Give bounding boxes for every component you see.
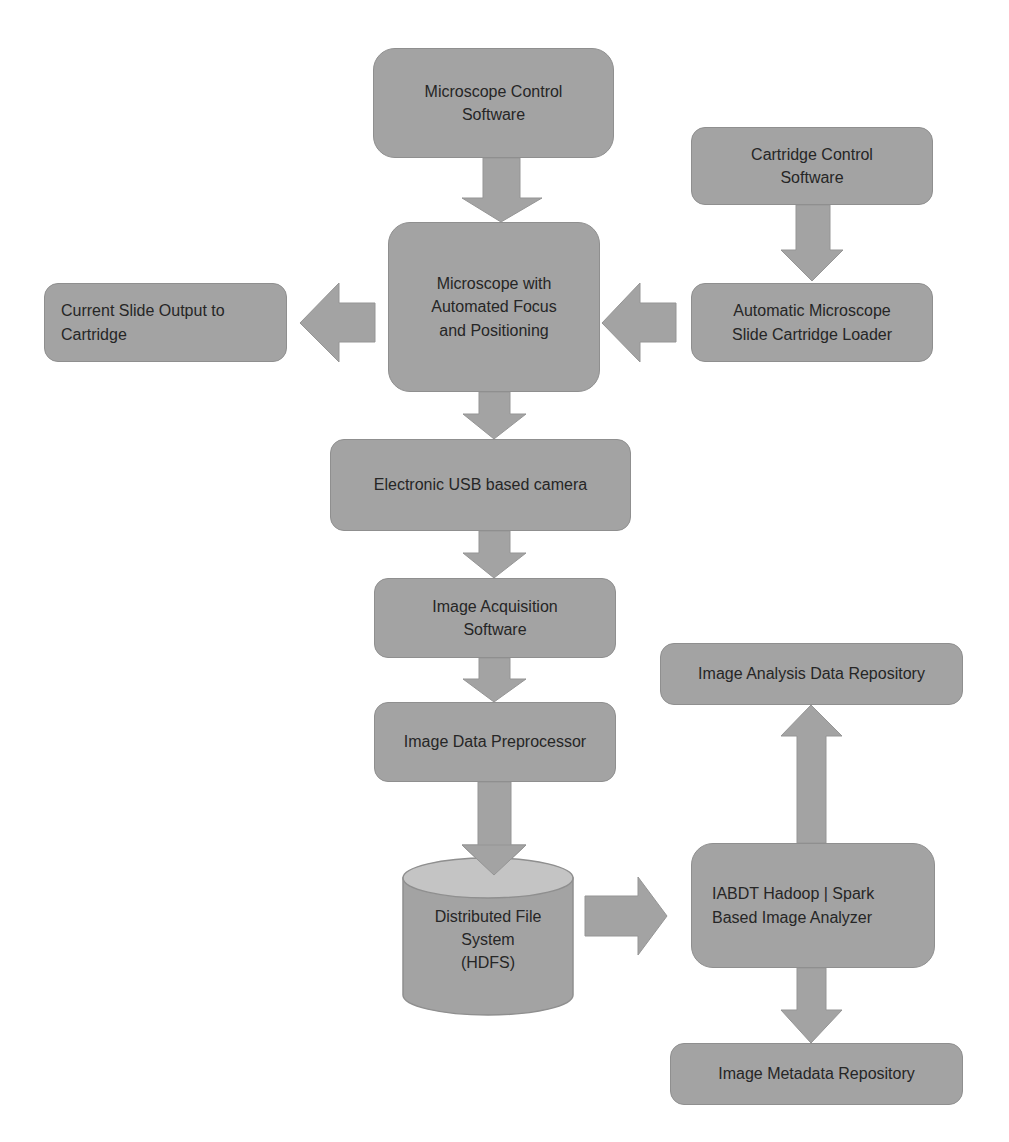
node-microscope-automated: Microscope with Automated Focus and Posi… — [388, 222, 600, 392]
node-cartridge-loader: Automatic Microscope Slide Cartridge Loa… — [691, 283, 933, 362]
node-label: Microscope with Automated Focus and Posi… — [431, 272, 556, 342]
node-image-preprocessor: Image Data Preprocessor — [374, 702, 616, 782]
node-label: Image Data Preprocessor — [404, 730, 586, 753]
arrow-left-icon — [300, 283, 375, 362]
node-label: Image Analysis Data Repository — [698, 662, 925, 685]
node-label: Electronic USB based camera — [374, 473, 587, 496]
node-label: Automatic Microscope Slide Cartridge Loa… — [732, 299, 892, 345]
node-cartridge-control-software: Cartridge Control Software — [691, 127, 933, 205]
arrow-down-icon — [462, 158, 542, 222]
arrow-down-icon — [462, 782, 526, 875]
node-analysis-repository: Image Analysis Data Repository — [660, 643, 963, 705]
node-label: Image Acquisition Software — [432, 595, 557, 641]
node-hdfs-label: Distributed File System (HDFS) — [403, 905, 573, 975]
arrow-down-icon — [463, 658, 526, 702]
arrow-down-icon — [781, 205, 843, 281]
node-image-acquisition: Image Acquisition Software — [374, 578, 616, 658]
node-microscope-control-software: Microscope Control Software — [373, 48, 614, 158]
node-usb-camera: Electronic USB based camera — [330, 439, 631, 531]
arrow-down-icon — [463, 531, 526, 578]
arrow-down-icon — [781, 968, 842, 1043]
arrow-left-icon — [602, 283, 676, 362]
node-metadata-repository: Image Metadata Repository — [670, 1043, 963, 1105]
arrow-down-icon — [463, 392, 526, 439]
node-label: IABDT Hadoop | Spark Based Image Analyze… — [712, 882, 874, 928]
node-label: Current Slide Output to Cartridge — [61, 299, 225, 345]
node-label: Microscope Control Software — [425, 80, 563, 126]
arrow-up-icon — [781, 705, 842, 843]
node-label: Cartridge Control Software — [751, 143, 873, 189]
node-slide-output: Current Slide Output to Cartridge — [44, 283, 287, 362]
node-label: Image Metadata Repository — [718, 1062, 915, 1085]
arrow-right-icon — [585, 877, 667, 955]
node-image-analyzer: IABDT Hadoop | Spark Based Image Analyze… — [691, 843, 935, 968]
